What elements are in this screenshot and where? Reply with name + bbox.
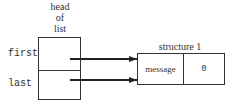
linked-list-diagram: head of list first last structure 1 mess… [0,0,233,103]
pointer-arrows [0,0,233,103]
